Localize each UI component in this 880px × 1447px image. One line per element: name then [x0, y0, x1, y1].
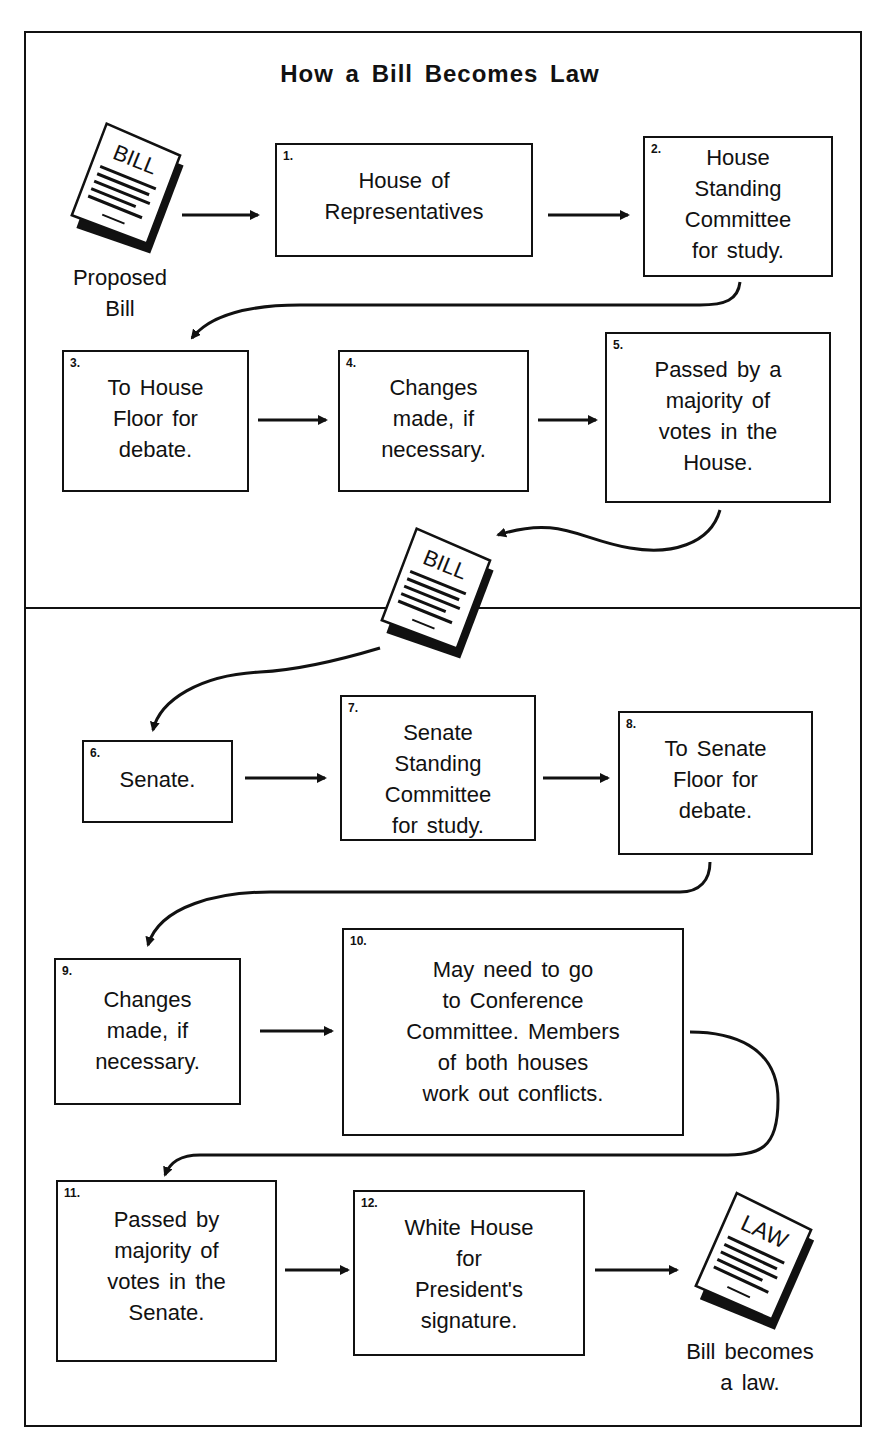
step-12-box: 12. White House for President's signatur… [353, 1190, 585, 1356]
step-3-box: 3. To House Floor for debate. [62, 350, 249, 492]
step-number: 4. [346, 356, 356, 370]
step-number: 12. [361, 1196, 378, 1210]
step-text: Changes made, if necessary. [56, 984, 239, 1077]
step-text: Changes made, if necessary. [340, 372, 527, 465]
step-text: May need to go to Conference Committee. … [344, 954, 682, 1109]
step-number: 3. [70, 356, 80, 370]
step-text: Senate Standing Committee for study. [342, 717, 534, 841]
step-text: To Senate Floor for debate. [620, 733, 811, 826]
step-9-box: 9. Changes made, if necessary. [54, 958, 241, 1105]
step-number: 5. [613, 338, 623, 352]
step-4-box: 4. Changes made, if necessary. [338, 350, 529, 492]
step-10-box: 10. May need to go to Conference Committ… [342, 928, 684, 1136]
bill-becomes-law-caption: Bill becomes a law. [660, 1336, 840, 1398]
step-2-box: 2. House Standing Committee for study. [643, 136, 833, 277]
bill-transfer-icon: BILL [365, 520, 505, 660]
step-number: 11. [64, 1186, 80, 1200]
step-5-box: 5. Passed by a majority of votes in the … [605, 332, 831, 503]
step-number: 7. [348, 701, 358, 715]
step-number: 10. [350, 934, 367, 948]
step-number: 6. [90, 746, 100, 760]
proposed-bill-caption: Proposed Bill [55, 262, 185, 324]
step-text: House of Representatives [277, 165, 531, 227]
step-text: Passed by a majority of votes in the Hou… [607, 354, 829, 478]
step-6-box: 6. Senate. [82, 740, 233, 823]
step-text: House Standing Committee for study. [645, 142, 831, 266]
step-8-box: 8. To Senate Floor for debate. [618, 711, 813, 855]
bill-document-icon: BILL [55, 115, 195, 255]
step-text: Passed by majority of votes in the Senat… [58, 1204, 275, 1328]
step-1-box: 1. House of Representatives [275, 143, 533, 257]
step-7-box: 7. Senate Standing Committee for study. [340, 695, 536, 841]
step-text: To House Floor for debate. [64, 372, 247, 465]
step-text: White House for President's signature. [355, 1212, 583, 1336]
step-11-box: 11. Passed by majority of votes in the S… [56, 1180, 277, 1362]
step-number: 9. [62, 964, 72, 978]
law-document-icon: LAW [680, 1185, 825, 1330]
step-number: 8. [626, 717, 636, 731]
step-text: Senate. [84, 764, 231, 795]
step-number: 1. [283, 149, 293, 163]
